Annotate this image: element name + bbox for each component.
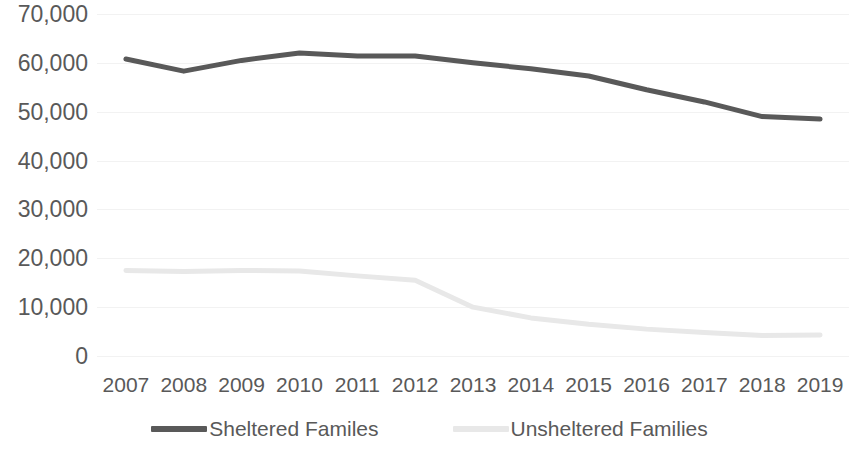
gridline — [97, 356, 849, 357]
x-axis-tick-label: 2016 — [623, 374, 670, 395]
y-axis-tick-label: 20,000 — [0, 247, 88, 270]
legend-item-label: Unsheltered Families — [511, 418, 708, 439]
x-axis-tick-label: 2013 — [450, 374, 497, 395]
x-axis-tick-label: 2014 — [507, 374, 554, 395]
y-axis-tick-label: 70,000 — [0, 3, 88, 26]
x-axis-tick-label: 2009 — [218, 374, 265, 395]
x-axis: 2007200820092010201120122013201420152016… — [97, 374, 849, 406]
line-chart: 70,00060,00050,00040,00030,00020,00010,0… — [0, 0, 859, 451]
x-axis-tick-label: 2019 — [797, 374, 844, 395]
x-axis-tick-label: 2015 — [565, 374, 612, 395]
y-axis-tick-label: 40,000 — [0, 149, 88, 172]
x-axis-tick-label: 2011 — [335, 374, 380, 395]
legend-swatch-icon — [453, 426, 509, 432]
y-axis-tick-label: 50,000 — [0, 100, 88, 123]
y-axis: 70,00060,00050,00040,00030,00020,00010,0… — [0, 0, 88, 370]
series-container — [97, 14, 849, 356]
y-axis-tick-label: 0 — [0, 345, 88, 368]
y-axis-tick-label: 60,000 — [0, 51, 88, 74]
legend-item-label: Sheltered Familes — [209, 418, 378, 439]
series-line — [126, 53, 820, 119]
legend-item[interactable]: Sheltered Familes — [151, 418, 378, 439]
x-axis-tick-label: 2010 — [276, 374, 323, 395]
x-axis-tick-label: 2007 — [103, 374, 150, 395]
plot-area — [97, 14, 849, 356]
x-axis-tick-label: 2017 — [681, 374, 728, 395]
series-line — [126, 271, 820, 336]
legend-swatch-icon — [151, 426, 207, 432]
x-axis-tick-label: 2008 — [160, 374, 207, 395]
y-axis-tick-label: 30,000 — [0, 198, 88, 221]
x-axis-tick-label: 2018 — [739, 374, 786, 395]
x-axis-tick-label: 2012 — [392, 374, 439, 395]
y-axis-tick-label: 10,000 — [0, 296, 88, 319]
legend-item[interactable]: Unsheltered Families — [453, 418, 708, 439]
chart-legend: Sheltered FamilesUnsheltered Families — [0, 418, 859, 439]
